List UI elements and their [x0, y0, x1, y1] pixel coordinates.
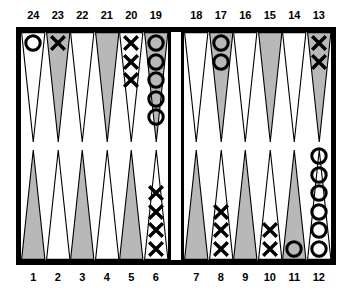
point-7[interactable] — [184, 146, 209, 260]
point-9[interactable] — [233, 146, 258, 260]
point-3[interactable] — [70, 146, 95, 260]
quadrant-bottom-left — [21, 146, 168, 260]
point-16[interactable] — [233, 32, 258, 146]
point-number-bottom-12: 12 — [305, 268, 333, 286]
point-5[interactable] — [119, 146, 144, 260]
top-point-numbers: 242322212019181716151413 — [0, 6, 351, 24]
point-2[interactable] — [46, 146, 71, 260]
point-number-top-19: 19 — [142, 6, 170, 24]
point-23[interactable] — [46, 32, 71, 146]
point-19[interactable] — [144, 32, 169, 146]
point-12[interactable] — [307, 146, 332, 260]
point-22[interactable] — [70, 32, 95, 146]
point-21[interactable] — [95, 32, 120, 146]
quadrant-bottom-right — [184, 146, 331, 260]
point-10[interactable] — [258, 146, 283, 260]
quadrant-top-left — [21, 32, 168, 146]
board-bar[interactable] — [168, 32, 184, 260]
point-14[interactable] — [282, 32, 307, 146]
point-8[interactable] — [209, 146, 234, 260]
point-number-top-13: 13 — [305, 6, 333, 24]
point-11[interactable] — [282, 146, 307, 260]
point-number-bottom-6: 6 — [142, 268, 170, 286]
quadrant-top-right — [184, 32, 331, 146]
point-18[interactable] — [184, 32, 209, 146]
point-24[interactable] — [21, 32, 46, 146]
point-13[interactable] — [307, 32, 332, 146]
backgammon-screenshot: 242322212019181716151413 — [0, 0, 351, 293]
bottom-point-numbers: 123456789101112 — [0, 268, 351, 286]
point-4[interactable] — [95, 146, 120, 260]
point-17[interactable] — [209, 32, 234, 146]
board-frame — [16, 27, 336, 265]
board-surface — [21, 32, 331, 260]
point-15[interactable] — [258, 32, 283, 146]
point-1[interactable] — [21, 146, 46, 260]
point-20[interactable] — [119, 32, 144, 146]
point-6[interactable] — [144, 146, 169, 260]
